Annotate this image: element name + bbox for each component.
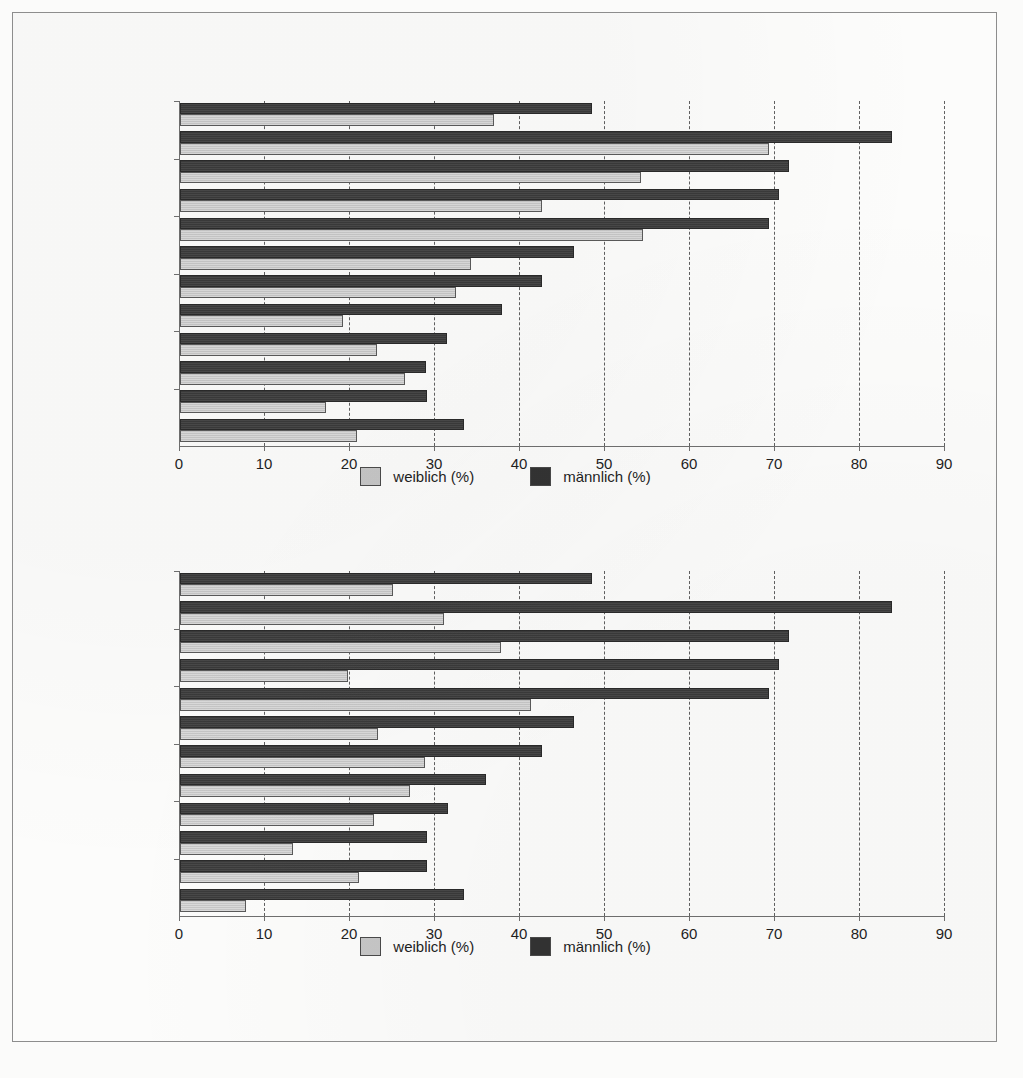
y-axis-tick xyxy=(174,274,179,275)
bar-male xyxy=(180,745,542,757)
bar-female xyxy=(180,229,643,241)
bar-female xyxy=(180,699,531,711)
bar-male xyxy=(180,573,592,585)
bar-female xyxy=(180,814,374,826)
x-axis-tick xyxy=(604,916,605,921)
gridline xyxy=(944,101,945,446)
bar-male xyxy=(180,774,486,786)
bar-female xyxy=(180,430,357,442)
x-axis-tick xyxy=(434,446,435,451)
chart-top: 0102030405060708090MateroKalingalingaMte… xyxy=(13,83,998,523)
gridline xyxy=(859,101,860,446)
bar-male xyxy=(180,831,427,843)
x-axis-tick xyxy=(179,916,180,921)
bar-female xyxy=(180,785,410,797)
chart-bottom: 0102030405060708090MateroKalingalingaJac… xyxy=(13,553,998,993)
plot-area-bottom: 0102030405060708090MateroKalingalingaJac… xyxy=(179,571,944,916)
x-axis-tick xyxy=(434,916,435,921)
legend-swatch-female-icon xyxy=(360,937,381,956)
x-axis-line-top xyxy=(179,446,944,447)
bar-female xyxy=(180,344,377,356)
x-axis-tick xyxy=(774,916,775,921)
gridline xyxy=(774,101,775,446)
bar-male xyxy=(180,131,892,143)
bar-male xyxy=(180,189,779,201)
bar-female xyxy=(180,200,542,212)
bar-male xyxy=(180,803,448,815)
bar-female xyxy=(180,670,348,682)
bar-female xyxy=(180,258,471,270)
bar-female xyxy=(180,172,641,184)
gridline xyxy=(944,571,945,916)
gridline xyxy=(859,571,860,916)
bar-male xyxy=(180,860,427,872)
plot-area-top: 0102030405060708090MateroKalingalingaMte… xyxy=(179,101,944,446)
page-root: 0102030405060708090MateroKalingalingaMte… xyxy=(0,0,1023,1078)
legend-label-female: weiblich (%) xyxy=(393,468,474,485)
y-axis-tick xyxy=(174,389,179,390)
gridline xyxy=(519,571,520,916)
bar-male xyxy=(180,601,892,613)
x-axis-tick xyxy=(264,916,265,921)
bar-male xyxy=(180,103,592,115)
x-axis-tick xyxy=(519,916,520,921)
x-axis-tick xyxy=(859,446,860,451)
bar-female xyxy=(180,584,393,596)
y-axis-tick xyxy=(174,629,179,630)
x-axis-tick xyxy=(349,916,350,921)
bar-male xyxy=(180,160,789,172)
x-axis-tick xyxy=(689,916,690,921)
bar-female xyxy=(180,900,246,912)
bar-male xyxy=(180,659,779,671)
bar-male xyxy=(180,688,769,700)
legend-swatch-male-icon xyxy=(530,937,551,956)
y-axis-tick xyxy=(174,859,179,860)
legend-label-female: weiblich (%) xyxy=(393,938,474,955)
x-axis-tick xyxy=(944,916,945,921)
y-axis-tick xyxy=(174,571,179,572)
bar-male xyxy=(180,361,426,373)
legend-top: weiblich (%) männlich (%) xyxy=(13,467,998,486)
bar-female xyxy=(180,373,405,385)
x-axis-tick xyxy=(519,446,520,451)
bar-female xyxy=(180,613,444,625)
y-axis-tick xyxy=(174,159,179,160)
y-axis-tick xyxy=(174,101,179,102)
gridline xyxy=(604,571,605,916)
legend-item-female-top: weiblich (%) xyxy=(360,467,474,486)
x-axis-tick xyxy=(604,446,605,451)
x-axis-line-bottom xyxy=(179,916,944,917)
bar-female xyxy=(180,757,425,769)
legend-item-male-top: männlich (%) xyxy=(530,467,651,486)
y-axis-tick xyxy=(174,744,179,745)
bar-female xyxy=(180,143,769,155)
bar-female xyxy=(180,843,293,855)
figure-frame: 0102030405060708090MateroKalingalingaMte… xyxy=(12,12,997,1042)
x-axis-tick xyxy=(179,446,180,451)
legend-item-female-bottom: weiblich (%) xyxy=(360,937,474,956)
legend-bottom: weiblich (%) männlich (%) xyxy=(13,937,998,956)
bar-male xyxy=(180,390,427,402)
y-axis-tick xyxy=(174,801,179,802)
legend-swatch-female-icon xyxy=(360,467,381,486)
x-axis-tick xyxy=(689,446,690,451)
bar-male xyxy=(180,716,574,728)
bar-male xyxy=(180,419,464,431)
legend-label-male: männlich (%) xyxy=(563,938,651,955)
bar-male xyxy=(180,333,447,345)
bar-female xyxy=(180,114,494,126)
x-axis-tick xyxy=(264,446,265,451)
gridline xyxy=(774,571,775,916)
bar-male xyxy=(180,218,769,230)
x-axis-tick xyxy=(859,916,860,921)
bar-female xyxy=(180,728,378,740)
bar-male xyxy=(180,889,464,901)
x-axis-tick xyxy=(774,446,775,451)
bar-female xyxy=(180,872,359,884)
y-axis-tick xyxy=(174,686,179,687)
legend-label-male: männlich (%) xyxy=(563,468,651,485)
bar-male xyxy=(180,246,574,258)
bar-male xyxy=(180,304,502,316)
gridline xyxy=(689,571,690,916)
legend-swatch-male-icon xyxy=(530,467,551,486)
